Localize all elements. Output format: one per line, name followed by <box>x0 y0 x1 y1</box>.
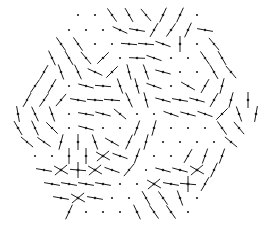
dipole-center <box>34 85 37 88</box>
lattice-point <box>170 155 172 157</box>
dipole-center <box>51 183 54 186</box>
dipole-center <box>136 155 139 158</box>
dipole-segment <box>142 191 150 205</box>
dipole-center <box>204 113 207 116</box>
lattice-point <box>179 71 181 73</box>
dipole-center <box>77 141 80 144</box>
dipole-segment <box>30 79 39 92</box>
lattice-point <box>119 127 121 129</box>
lattice-point <box>196 71 198 73</box>
dipole-center <box>60 71 63 74</box>
lattice-point <box>102 127 104 129</box>
dipole-center <box>221 127 224 130</box>
lattice-point <box>170 57 172 59</box>
lattice-point <box>136 113 138 115</box>
dipole-segment <box>65 51 73 65</box>
dipole-center <box>162 169 165 172</box>
dipole-segment <box>166 205 175 218</box>
dipole-center <box>196 99 199 102</box>
dipole-center <box>153 85 156 88</box>
dipole-center <box>128 14 131 17</box>
dipole-segment <box>134 205 141 220</box>
dipole-segment <box>149 205 158 218</box>
lattice-point <box>145 169 147 171</box>
dipole-segment <box>56 37 65 50</box>
dipole-center <box>213 43 216 46</box>
dipole-center <box>153 211 156 214</box>
dipole-segment <box>172 99 188 102</box>
dipole-segment <box>225 137 237 147</box>
lattice-point <box>196 14 198 16</box>
dipole-center <box>51 127 54 130</box>
lattice-point <box>94 43 96 45</box>
lattice-point <box>136 183 138 185</box>
dipole-segment <box>147 55 162 60</box>
dipole-center <box>204 57 207 60</box>
dipole-segment <box>59 134 63 149</box>
lattice-point <box>179 141 181 143</box>
dipole-center <box>77 169 80 172</box>
dipole-center <box>170 211 173 214</box>
dipole-segment <box>88 69 103 76</box>
dipole-segment <box>32 107 39 122</box>
dipole-segment <box>226 66 236 78</box>
dipole-segment <box>97 52 108 63</box>
dipole-center <box>162 197 165 200</box>
lattice-point <box>153 113 155 115</box>
lattice-point <box>85 29 87 31</box>
dipole-center <box>128 43 131 46</box>
dipole-center <box>102 57 105 60</box>
dipole-center <box>68 183 71 186</box>
dipole-center <box>17 113 20 116</box>
cross-site <box>97 151 109 161</box>
dipole-center <box>102 183 105 186</box>
dipole-segment <box>107 8 116 21</box>
dipole-center <box>170 183 173 186</box>
dipole-center <box>179 169 182 172</box>
dipole-center <box>94 169 97 172</box>
dipole-segment <box>166 23 175 36</box>
dipole-center <box>43 99 46 102</box>
dipole-center <box>85 127 88 130</box>
dipole-center <box>77 43 80 46</box>
dipole-segment <box>185 23 192 38</box>
lattice-point <box>213 141 215 143</box>
dipole-center <box>255 113 258 116</box>
dipole-center <box>162 71 165 74</box>
cross-site <box>191 165 203 175</box>
dipole-center <box>43 71 46 74</box>
cross-site <box>72 193 84 203</box>
dipole-center <box>162 99 165 102</box>
dipole-segment <box>21 137 33 147</box>
dipole-center <box>85 85 88 88</box>
dipole-center <box>153 183 156 186</box>
dipole-center <box>68 57 71 60</box>
dipole-center <box>136 127 139 130</box>
dipole-segment <box>121 43 137 46</box>
dipole-segment <box>210 65 218 79</box>
dipole-segment <box>160 8 167 23</box>
dipole-segment <box>172 168 187 172</box>
lattice-point <box>119 183 121 185</box>
dipole-center <box>102 155 105 158</box>
dipole-segment <box>201 177 209 191</box>
lattice-point <box>68 127 70 129</box>
dipole-segment <box>125 8 133 22</box>
dipole-segment <box>216 108 227 119</box>
dipole-segment <box>247 92 250 108</box>
lattice-point <box>34 155 36 157</box>
dipole-segment <box>129 29 145 32</box>
lattice-point <box>119 57 121 59</box>
dipole-segment <box>113 27 128 34</box>
lattice-point <box>162 141 164 143</box>
dipole-segment <box>219 149 224 164</box>
dipole-center <box>68 211 71 214</box>
dipole-segment <box>44 183 60 186</box>
dipole-center <box>26 141 29 144</box>
dipole-center <box>94 141 97 144</box>
cross-site <box>55 165 67 175</box>
dipole-center <box>119 85 122 88</box>
dipole-segment <box>197 29 213 32</box>
dipole-center <box>34 127 37 130</box>
dipole-center <box>60 169 63 172</box>
